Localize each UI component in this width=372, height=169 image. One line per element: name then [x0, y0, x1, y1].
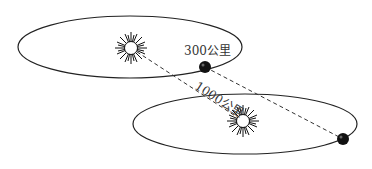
planet-icon	[199, 61, 211, 73]
orbit-radius-label: 300公里	[184, 44, 231, 58]
distance-label: 1000公里	[192, 79, 245, 120]
sun-icon	[115, 32, 147, 64]
planet-icon	[337, 133, 349, 145]
binary-orbit-diagram: 300公里 1000公里	[0, 0, 372, 169]
